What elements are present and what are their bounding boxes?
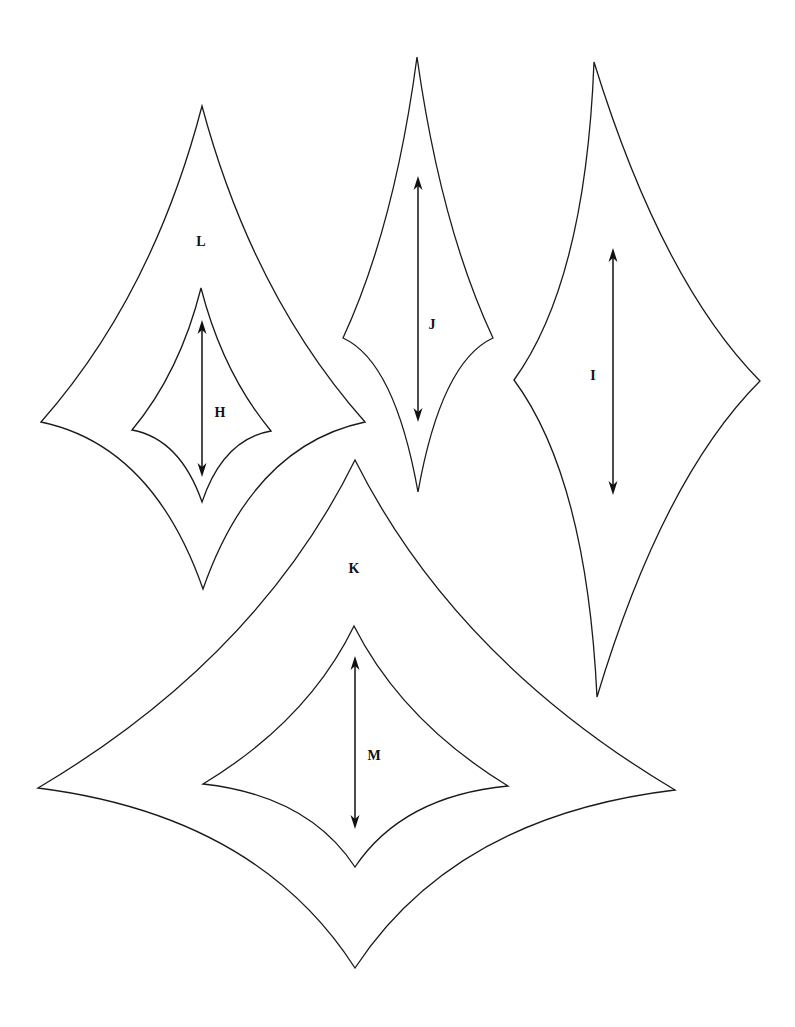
double-arrow-icon <box>414 176 423 422</box>
shape-k: K <box>38 460 675 968</box>
shape-i-outline <box>514 62 760 697</box>
shape-m: M <box>203 626 508 867</box>
double-arrow-icon <box>351 656 360 829</box>
double-arrow-icon <box>609 248 618 495</box>
shape-l-outline <box>41 106 365 589</box>
shape-k-outline <box>38 460 675 968</box>
shape-h: H <box>132 288 271 502</box>
diagram-canvas: L H J I K <box>0 0 795 1027</box>
double-arrow-icon <box>198 320 207 477</box>
shape-m-label: M <box>367 748 380 763</box>
shape-i-label: I <box>590 368 595 383</box>
shape-l: L <box>41 106 365 589</box>
shape-i: I <box>514 62 760 697</box>
shape-j-label: J <box>429 317 436 332</box>
shape-h-label: H <box>215 405 226 420</box>
shape-k-label: K <box>349 561 360 576</box>
shape-l-label: L <box>196 234 205 249</box>
shape-j: J <box>343 57 493 492</box>
